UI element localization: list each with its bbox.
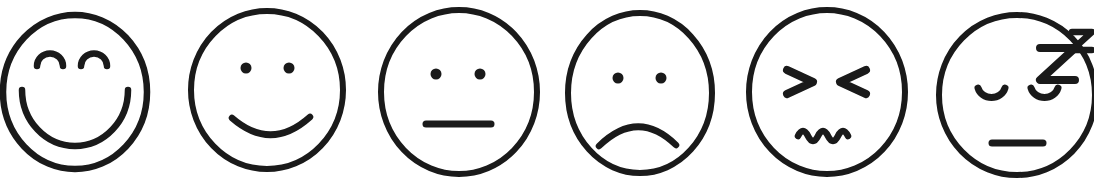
face-distressed[interactable]: Distressed — [749, 10, 905, 174]
left-eye-dot-icon — [613, 73, 624, 84]
face-neutral[interactable]: Neutral — [381, 10, 537, 174]
right-eye-dot-icon — [475, 69, 486, 80]
left-eye-arc-down-icon — [978, 88, 1005, 98]
right-eye-arc-down-icon — [1031, 88, 1058, 98]
mouth-frown — [599, 127, 676, 146]
faces-canvas: Very happy Happy Neutral Sad — [0, 0, 1094, 178]
face-sleepy[interactable]: Sleepy — [939, 15, 1094, 175]
face-outline-circle — [568, 13, 712, 173]
face-outline-circle — [191, 11, 343, 169]
mouth-squiggle — [798, 131, 848, 141]
left-eye-arc-up-icon — [37, 53, 63, 66]
face-sad[interactable]: Sad — [568, 13, 712, 173]
right-eye-squint-lt-icon — [840, 70, 866, 94]
mouth-big-smile — [22, 90, 128, 146]
right-eye-dot-icon — [284, 63, 295, 74]
right-eye-dot-icon — [656, 73, 667, 84]
face-outline-circle — [749, 10, 905, 174]
face-happy[interactable]: Happy — [191, 11, 343, 169]
emoticon-faces-strip: Very happy Happy Neutral Sad — [0, 0, 1094, 178]
left-eye-dot-icon — [431, 69, 442, 80]
face-very-happy[interactable]: Very happy — [3, 15, 147, 169]
left-eye-squint-gt-icon — [787, 70, 813, 94]
mouth-smile — [232, 117, 310, 135]
sleep-mark-large-z-icon — [1040, 48, 1075, 80]
face-outline-circle — [939, 15, 1094, 175]
right-eye-arc-up-icon — [81, 54, 107, 66]
left-eye-dot-icon — [241, 63, 252, 74]
face-outline-circle — [381, 10, 537, 174]
